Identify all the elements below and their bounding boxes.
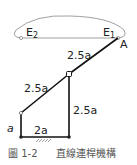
label-left-crank: a (7, 122, 14, 135)
label-point-a: A (120, 38, 128, 51)
label-lower-coupler: 2.5a (24, 82, 48, 95)
linkage-diagram: E2 E1 A 2.5a 2.5a 2.5a a 2a 圖 1-2 直線連桿機構 (0, 0, 137, 165)
ground-hatch-icon (36, 139, 51, 142)
figure-title: 直線連桿機構 (56, 147, 116, 159)
label-upper-coupler: 2.5a (67, 49, 91, 62)
point-e2-marker (19, 36, 22, 39)
left-ground-pivot (19, 135, 23, 139)
figure-number: 圖 1-2 (8, 148, 38, 159)
right-ground-pivot (67, 135, 71, 139)
middle-pivot-joint (67, 72, 72, 77)
label-right-rocker: 2.5a (73, 104, 97, 117)
left-upper-joint (19, 111, 22, 114)
label-e2: E2 (26, 26, 38, 40)
label-e1: E1 (103, 26, 115, 40)
label-ground-link: 2a (34, 124, 48, 137)
